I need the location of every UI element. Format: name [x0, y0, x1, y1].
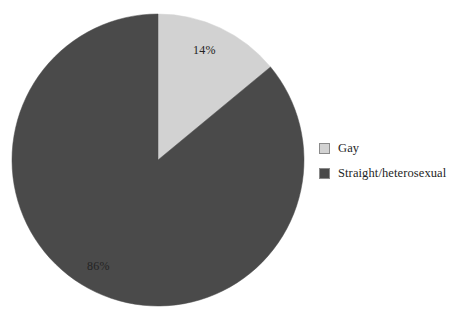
chart-legend: Gay Straight/heterosexual [319, 136, 455, 186]
legend-swatch-icon-gay [319, 143, 330, 154]
pie-slices [12, 14, 304, 306]
legend-item-gay[interactable]: Gay [319, 136, 455, 161]
chart-canvas: 14% 86% Gay Straight/heterosexual [0, 0, 455, 315]
legend-label-gay: Gay [338, 141, 359, 156]
legend-swatch-icon-straight [319, 168, 330, 179]
pie-slice-label-straight: 86% [87, 259, 110, 274]
legend-item-straight[interactable]: Straight/heterosexual [319, 161, 455, 186]
pie-slice-label-gay: 14% [193, 43, 216, 58]
legend-label-straight: Straight/heterosexual [338, 166, 446, 181]
